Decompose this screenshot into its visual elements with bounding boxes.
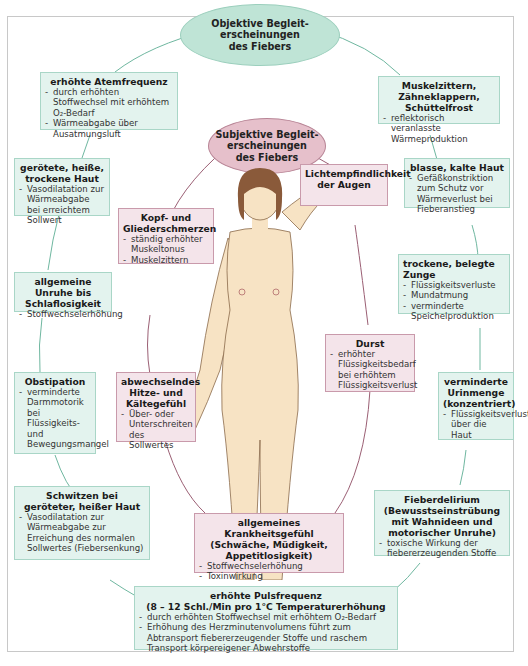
box-title: Durst — [330, 338, 410, 349]
subjective-box-pain: Kopf- und Gliederschmerzen ständig erhöh… — [118, 208, 214, 264]
box-item: durch erhöhten Stoffwechsel mit erhöhtem… — [139, 612, 393, 622]
box-title: allgemeine Unruhe bis Schlaflosigkeit — [19, 276, 107, 309]
box-title: blasse, kalte Haut — [409, 162, 505, 173]
box-item: Flüssigkeitsverluste über die Haut — [443, 409, 509, 440]
subjective-box-thirst: Durst erhöhter Flüssigkeitsbedarf bei er… — [325, 334, 415, 392]
box-title: verminderte Urinmenge (konzentriert) — [443, 376, 509, 409]
box-item: Muskelzittern — [123, 255, 209, 265]
box-item: Gefäßkonstriktion zum Schutz vor Wärmeve… — [409, 173, 505, 215]
objective-box-urine: verminderte Urinmenge (konzentriert) Flü… — [438, 372, 514, 440]
box-item: toxische Wirkung der fiebererzeugenden S… — [379, 538, 505, 559]
objective-center-line-3: des Fiebers — [211, 41, 309, 52]
box-item: Flüssigkeitsverluste — [403, 280, 505, 290]
objective-box-delirium: Fieberdelirium (Bewusstseinstrübung mit … — [374, 490, 510, 556]
box-item: Mundatmung — [403, 290, 505, 300]
box-item: Erhöhung des Herzminutenvolumens führt z… — [139, 622, 393, 653]
box-subtitle: (8 – 12 Schl./Min pro 1°C Temperaturerhö… — [139, 601, 393, 612]
objective-box-pulse: erhöhte Pulsfrequenz (8 – 12 Schl./Min p… — [134, 586, 398, 650]
box-item: Toxinwirkung — [199, 571, 339, 581]
box-item: Vasodilatation zur Wärmeabgabe bei errei… — [19, 184, 105, 226]
box-item: Über- oder Unterschreiten des Sollwertes — [121, 409, 191, 451]
objective-center-line-1: Objektive Begleit- — [211, 18, 309, 29]
objective-box-dry-tongue: trockene, belegte Zunge Flüssigkeitsverl… — [398, 254, 510, 314]
box-title: erhöhte Pulsfrequenz — [139, 590, 393, 601]
objective-box-constipation: Obstipation verminderte Darmmotorik bei … — [14, 372, 96, 454]
box-title: erhöhte Atemfrequenz — [45, 76, 173, 87]
box-title: abwechselndes Hitze- und Kältegefühl — [121, 376, 191, 409]
box-item: Wärmeabgabe über Ausatmungsluft — [45, 118, 173, 139]
subjective-box-hot-cold: abwechselndes Hitze- und Kältegefühl Übe… — [116, 372, 196, 442]
box-item: verminderte Darmmotorik bei Flüssigkeits… — [19, 387, 91, 449]
objective-center-node: Objektive Begleit- erscheinungen des Fie… — [180, 4, 340, 66]
box-title: trockene, belegte Zunge — [403, 258, 505, 280]
box-title: Muskelzittern, Zähneklappern, Schüttelfr… — [383, 80, 495, 113]
box-title: Fieberdelirium (Bewusstseinstrübung mit … — [379, 494, 505, 538]
box-item: Stoffwechselerhöhung — [199, 561, 339, 571]
box-title: Schwitzen bei geröteter, heißer Haut — [19, 490, 145, 512]
box-title: Lichtempfindlichkeit der Augen — [305, 168, 383, 190]
objective-box-pale-skin: blasse, kalte Haut Gefäßkonstriktion zum… — [404, 158, 510, 208]
box-item: Stoffwechselerhöhung — [19, 309, 107, 319]
box-title: Kopf- und Gliederschmerzen — [123, 212, 209, 234]
objective-box-breathing: erhöhte Atemfrequenz durch erhöhten Stof… — [40, 72, 178, 130]
box-title: allgemeines Krankheitsgefühl (Schwäche, … — [199, 517, 339, 561]
box-item: ständig erhöhter Muskeltonus — [123, 234, 209, 255]
objective-box-sweating: Schwitzen bei geröteter, heißer Haut Vas… — [14, 486, 150, 560]
subjective-center-line-1: Subjektive Begleit- — [215, 129, 318, 140]
objective-box-restlessness: allgemeine Unruhe bis Schlaflosigkeit St… — [14, 272, 112, 312]
box-title: Obstipation — [19, 376, 91, 387]
box-title: gerötete, heiße, trockene Haut — [19, 162, 105, 184]
objective-box-shivering: Muskelzittern, Zähneklappern, Schüttelfr… — [378, 76, 500, 124]
box-item: Vasodilatation zur Wärmeabgabe zur Errei… — [19, 512, 145, 554]
box-item: verminderte Speichelproduktion — [403, 301, 505, 322]
box-item: reflektorisch veranlasste Wärmeproduktio… — [383, 113, 495, 144]
objective-center-line-2: erscheinungen — [211, 29, 309, 40]
box-item: durch erhöhten Stoffwechsel mit erhöhtem… — [45, 87, 173, 118]
subjective-box-photophobia: Lichtempfindlichkeit der Augen — [300, 164, 388, 206]
box-item: erhöhter Flüssigkeitsbedarf bei erhöhtem… — [330, 349, 410, 391]
subjective-box-malaise: allgemeines Krankheitsgefühl (Schwäche, … — [194, 513, 344, 573]
objective-box-hot-skin: gerötete, heiße, trockene Haut Vasodilat… — [14, 158, 110, 216]
